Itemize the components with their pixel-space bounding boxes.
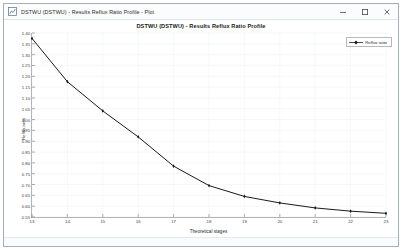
x-tick-label: 20 bbox=[277, 219, 282, 224]
chart-legend[interactable]: Reflux ratio bbox=[346, 37, 392, 47]
y-tick-label: 1.40 bbox=[22, 31, 30, 36]
data-point-marker bbox=[102, 109, 104, 113]
x-tick-label: 15 bbox=[100, 219, 105, 224]
plot-canvas bbox=[32, 33, 386, 217]
plot-window: DSTWU (DSTWU) - Results Reflux Ratio Pro… bbox=[3, 3, 399, 247]
x-tick-label: 19 bbox=[242, 219, 247, 224]
y-tick-label: 1.30 bbox=[22, 52, 30, 57]
data-point-marker bbox=[173, 164, 175, 168]
y-tick-label: 1.00 bbox=[22, 117, 30, 122]
y-tick-label: 0.95 bbox=[22, 128, 30, 133]
y-tick-label: 1.05 bbox=[22, 106, 30, 111]
y-tick-label: 1.10 bbox=[22, 95, 30, 100]
y-tick-label: 0.65 bbox=[22, 193, 30, 198]
plot-window-icon bbox=[8, 7, 17, 16]
x-tick-label: 21 bbox=[313, 219, 318, 224]
y-tick-label: 1.15 bbox=[22, 85, 30, 90]
window-titlebar[interactable]: DSTWU (DSTWU) - Results Reflux Ratio Pro… bbox=[4, 4, 398, 20]
y-tick-label: 0.80 bbox=[22, 160, 30, 165]
y-tick-label: 0.90 bbox=[22, 139, 30, 144]
legend-marker-icon bbox=[349, 40, 363, 45]
maximize-button[interactable] bbox=[354, 4, 376, 19]
data-point-marker bbox=[350, 209, 352, 213]
window-title: DSTWU (DSTWU) - Results Reflux Ratio Pro… bbox=[21, 9, 332, 15]
x-tick-label: 14 bbox=[65, 219, 70, 224]
data-point-marker bbox=[279, 201, 281, 205]
y-tick-label: 0.60 bbox=[22, 204, 30, 209]
data-point-marker bbox=[314, 206, 316, 210]
close-button[interactable] bbox=[376, 4, 398, 19]
window-controls bbox=[332, 4, 398, 19]
y-tick-label: 1.35 bbox=[22, 41, 30, 46]
x-tick-label: 22 bbox=[348, 219, 353, 224]
x-tick-label: 16 bbox=[136, 219, 141, 224]
x-tick-label: 13 bbox=[30, 219, 35, 224]
minimize-button[interactable] bbox=[332, 4, 354, 19]
x-tick-label: 17 bbox=[171, 219, 176, 224]
y-tick-label: 1.25 bbox=[22, 63, 30, 68]
x-tick-label: 18 bbox=[207, 219, 212, 224]
chart-title: DSTWU (DSTWU) - Results Reflux Ratio Pro… bbox=[4, 23, 398, 29]
x-axis-label: Theoretical stages bbox=[31, 229, 386, 234]
chart-panel: DSTWU (DSTWU) - Results Reflux Ratio Pro… bbox=[4, 20, 398, 237]
y-tick-label: 0.85 bbox=[22, 150, 30, 155]
y-tick-label: 0.75 bbox=[22, 171, 30, 176]
window-statusbar bbox=[4, 237, 398, 246]
y-tick-label: 0.70 bbox=[22, 182, 30, 187]
plot-area: 0.550.600.650.700.750.800.850.900.951.00… bbox=[31, 33, 386, 218]
x-tick-label: 23 bbox=[384, 219, 389, 224]
legend-label: Reflux ratio bbox=[365, 40, 387, 45]
y-tick-label: 1.20 bbox=[22, 74, 30, 79]
data-point-marker bbox=[137, 135, 139, 139]
data-point-marker bbox=[385, 211, 387, 215]
